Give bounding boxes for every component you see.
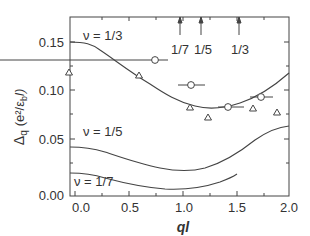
x-tick-label: 1.0	[175, 200, 193, 215]
x-tick-label: 2.0	[280, 200, 298, 215]
label-nu-1-3: ν = 1/3	[83, 28, 122, 43]
y-tick-label: 0.00	[39, 188, 64, 203]
y-tick-label: 0.15	[39, 35, 64, 50]
x-ticks-bottom	[75, 191, 264, 196]
y-ticks-right	[284, 42, 289, 163]
y-tick-label: 0.10	[39, 83, 64, 98]
arrow-label-1-3: 1/3	[231, 42, 249, 57]
label-nu-1-5: ν = 1/5	[83, 124, 122, 139]
y-axis-label: Δq(e²/εbl)	[11, 89, 29, 145]
x-axis-label: ql	[177, 219, 191, 235]
x-tick-label: 0.0	[72, 200, 90, 215]
arrow-label-1-7: 1/7	[171, 42, 189, 57]
y-tick-label: 0.05	[39, 132, 64, 147]
triangle-markers	[66, 69, 281, 120]
arrow-label-1-5: 1/5	[194, 42, 212, 57]
x-tick-label: 1.5	[228, 200, 246, 215]
svg-text:Δq(e²/εbl): Δq(e²/εbl)	[11, 89, 29, 145]
chart: 0.15 0.10 0.05 0.00 0.0 0.5 1.0 1.5 2.0 …	[0, 0, 310, 236]
x-tick-label: 0.5	[121, 200, 139, 215]
label-nu-1-7: ν = 1/7	[74, 174, 113, 189]
